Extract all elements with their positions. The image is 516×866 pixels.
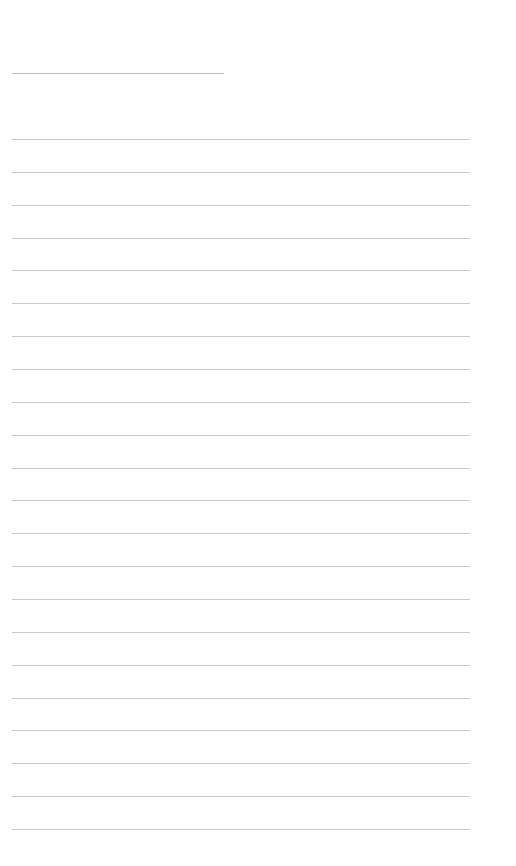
ruled-line [12, 336, 470, 337]
ruled-line [12, 238, 470, 239]
ruled-line [12, 533, 470, 534]
ruled-line [12, 599, 470, 600]
ruled-line [12, 435, 470, 436]
ruled-line [12, 205, 470, 206]
ruled-line [12, 500, 470, 501]
ruled-line [12, 763, 470, 764]
header-rule-line [12, 73, 224, 74]
ruled-line [12, 369, 470, 370]
lined-paper-page [0, 0, 516, 866]
ruled-line [12, 796, 470, 797]
ruled-line [12, 698, 470, 699]
ruled-line [12, 270, 470, 271]
ruled-line [12, 303, 470, 304]
ruled-line [12, 172, 470, 173]
ruled-line [12, 566, 470, 567]
ruled-line [12, 139, 470, 140]
ruled-line [12, 665, 470, 666]
ruled-line [12, 632, 470, 633]
ruled-line [12, 402, 470, 403]
ruled-line [12, 829, 470, 830]
ruled-line [12, 468, 470, 469]
ruled-line [12, 730, 470, 731]
